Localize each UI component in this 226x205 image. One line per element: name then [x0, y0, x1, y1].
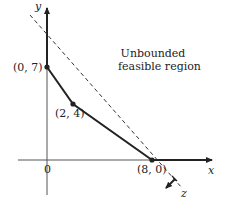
origin-label: 0 [44, 164, 51, 176]
region-label-line2: feasible region [118, 60, 188, 73]
point-label-8-0: (8, 0) [137, 164, 167, 176]
feasible-region-diagram: y x 0 (0, 7) (2, 4) (8, 0) Unbounded fea… [0, 0, 226, 205]
region-label: Unbounded feasible region [118, 47, 188, 73]
x-axis-label: x [208, 165, 214, 177]
vertex-0-7 [44, 64, 49, 69]
y-axis-label: y [35, 1, 41, 13]
objective-label: z [181, 188, 187, 200]
objective-direction-arrow [166, 176, 177, 188]
point-label-0-7: (0, 7) [13, 62, 43, 74]
vertex-2-4 [70, 101, 75, 106]
region-label-line1: Unbounded [118, 47, 188, 60]
point-label-2-4: (2, 4) [55, 108, 85, 120]
diagram-canvas [0, 0, 226, 205]
vertex-8-0 [149, 157, 154, 162]
